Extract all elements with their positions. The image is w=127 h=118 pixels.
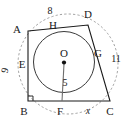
geometry-canvas: A B C D H E F G O 8 11 9 5 x	[0, 0, 127, 118]
vertex-label-d: D	[84, 8, 92, 20]
center-label-o: O	[60, 47, 68, 59]
vertex-label-a: A	[13, 23, 21, 35]
measure-label-right-11: 11	[111, 53, 121, 64]
tangent-label-g: G	[94, 47, 102, 59]
center-point-o-dot	[62, 60, 66, 64]
vertex-label-b: B	[20, 105, 27, 117]
vertex-label-c: C	[106, 105, 113, 117]
tangent-label-e: E	[19, 58, 26, 70]
measure-label-left-9: 9	[0, 67, 10, 74]
measure-label-top-8: 8	[48, 5, 53, 16]
measure-label-radius-5: 5	[63, 77, 68, 88]
measure-label-bottom-x: x	[85, 105, 91, 116]
tangent-label-h: H	[49, 19, 57, 31]
geometry-figure: A B C D H E F G O 8 11 9 5 x	[0, 0, 127, 118]
tangent-label-f: F	[57, 105, 63, 117]
quadrilateral-abcd	[28, 25, 110, 101]
